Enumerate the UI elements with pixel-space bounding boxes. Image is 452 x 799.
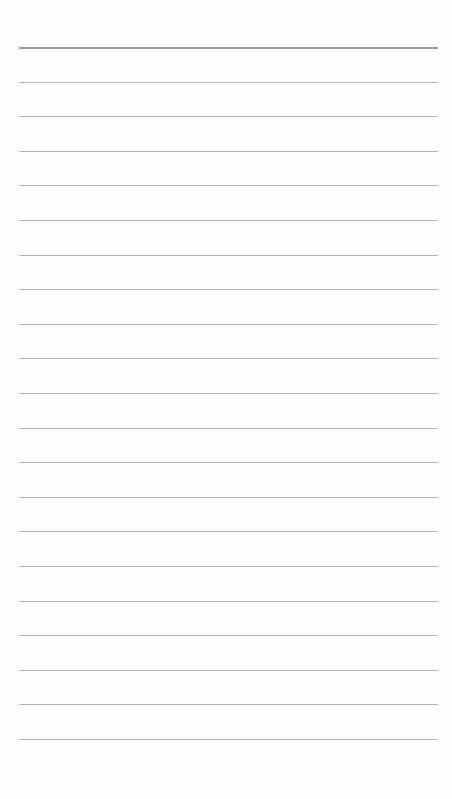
- rule-line: [19, 531, 438, 532]
- rule-line: [19, 289, 438, 290]
- rule-line: [19, 497, 438, 498]
- rule-line: [19, 220, 438, 221]
- rule-line: [19, 635, 438, 636]
- rule-line: [19, 601, 438, 602]
- rule-line: [19, 393, 438, 394]
- rule-line: [19, 116, 438, 117]
- rule-line: [19, 704, 438, 705]
- rule-line: [19, 324, 438, 325]
- rule-line: [19, 255, 438, 256]
- rule-line: [19, 82, 438, 83]
- rule-line: [19, 185, 438, 186]
- rule-line: [19, 428, 438, 429]
- rule-line: [19, 739, 438, 740]
- rule-line: [19, 462, 438, 463]
- rule-line: [19, 670, 438, 671]
- lined-paper-page: [0, 0, 452, 799]
- rule-line: [19, 151, 438, 152]
- header-rule-line: [19, 47, 438, 49]
- rule-line: [19, 566, 438, 567]
- rule-line: [19, 358, 438, 359]
